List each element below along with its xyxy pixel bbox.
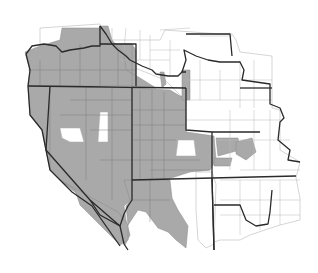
- utah-hole: [176, 140, 196, 156]
- colorado-shaded-south: [214, 158, 232, 166]
- california-north-shaded: [28, 86, 50, 170]
- county-map: [0, 0, 318, 273]
- arizona-shaded: [124, 180, 188, 248]
- nevada-hole-central: [98, 112, 108, 142]
